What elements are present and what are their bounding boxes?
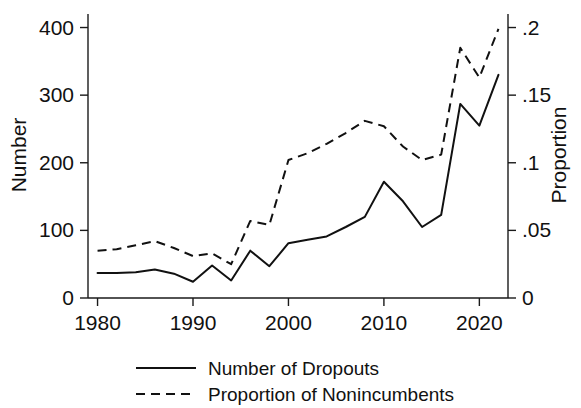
legend-label: Proportion of Nonincumbents <box>208 384 454 405</box>
series-line-proportion-of-nonincumbents <box>98 29 499 264</box>
x-axis-tick-label: 2010 <box>361 311 408 334</box>
y-axis-left-tick-label: 300 <box>39 83 74 106</box>
y-axis-right-ticks: 0.05.1.15.2 <box>508 16 551 309</box>
y-axis-right-tick-label: .15 <box>522 83 551 106</box>
x-axis-tick-label: 1980 <box>74 311 121 334</box>
y-axis-right-tick-label: 0 <box>522 286 534 309</box>
x-axis-tick-label: 1990 <box>170 311 217 334</box>
chart-figure: 0100200300400 0.05.1.15.2 19801990200020… <box>0 0 581 408</box>
x-axis-tick-label: 2000 <box>265 311 312 334</box>
series-line-number-of-dropouts <box>98 75 499 282</box>
y-axis-left-tick-label: 400 <box>39 16 74 39</box>
chart-canvas: 0100200300400 0.05.1.15.2 19801990200020… <box>0 0 581 408</box>
y-axis-left-tick-label: 200 <box>39 151 74 174</box>
y-axis-right-tick-label: .1 <box>522 151 540 174</box>
y-axis-left-tick-label: 0 <box>62 286 74 309</box>
chart-legend: Number of DropoutsProportion of Nonincum… <box>136 358 454 405</box>
y-axis-left-title: Number <box>7 118 30 193</box>
y-axis-right-tick-label: .2 <box>522 16 540 39</box>
x-axis-ticks: 19801990200020102020 <box>74 298 503 334</box>
y-axis-left-tick-label: 100 <box>39 218 74 241</box>
legend-label: Number of Dropouts <box>208 358 379 379</box>
y-axis-right-title: Proportion <box>547 107 570 204</box>
x-axis-tick-label: 2020 <box>456 311 503 334</box>
y-axis-right-tick-label: .05 <box>522 218 551 241</box>
y-axis-left-ticks: 0100200300400 <box>39 16 88 309</box>
